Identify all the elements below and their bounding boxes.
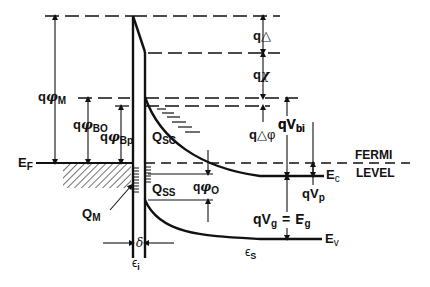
label-fermi: FERMI — [355, 148, 392, 162]
metal-hatch — [63, 164, 131, 188]
label-eps-i: ϵi — [132, 256, 140, 272]
dashed-levels-mid — [78, 98, 298, 106]
label-level: LEVEL — [356, 166, 395, 180]
label-e-f: EF — [18, 155, 33, 172]
label-q-ss: QSS — [152, 181, 176, 198]
band-diagram: qφM qφBO qφBp EF QM QSC QSS qφO q△ qχ q△… — [0, 0, 430, 287]
label-delta: δ — [136, 236, 143, 250]
label-q-m: QM — [82, 206, 100, 223]
label-q-phi-bp: qφBp — [100, 129, 133, 146]
label-q-phi-m: qφM — [38, 89, 66, 106]
insulator-layer — [133, 16, 145, 258]
label-e-c: Ec — [326, 167, 340, 184]
label-q-delta-phi: q△φ — [249, 127, 275, 142]
label-q-v-p: qVp — [302, 186, 325, 203]
label-eps-s: ϵS — [245, 245, 256, 261]
label-q-phi-o: qφO — [193, 180, 219, 196]
label-e-v: Ev — [325, 231, 339, 248]
label-q-delta: q△ — [253, 28, 271, 43]
label-q-chi: qχ — [253, 67, 271, 82]
label-q-v-g: qVg=Eg — [253, 211, 311, 229]
label-q-v-bi-text: qVbi — [278, 116, 305, 134]
